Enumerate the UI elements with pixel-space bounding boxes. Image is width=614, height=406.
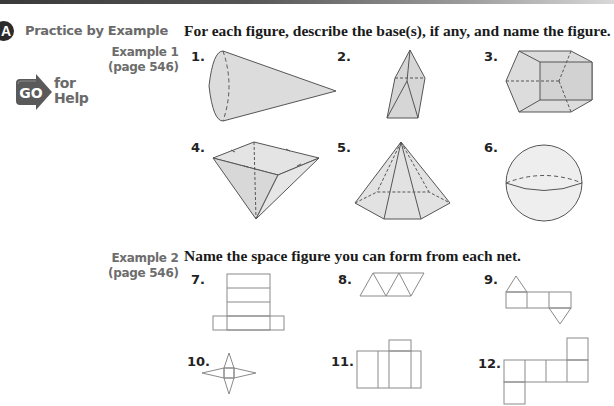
go-for-help-link[interactable]: GO for Help bbox=[14, 74, 89, 112]
example-2-label: Example 2 bbox=[108, 251, 179, 266]
net-figure-12 bbox=[478, 356, 568, 406]
example-2-instruction: Name the space figure you can form from … bbox=[184, 247, 521, 265]
example-2-page: (page 546) bbox=[108, 266, 179, 281]
example-1-page: (page 546) bbox=[108, 60, 179, 75]
net-figure-7 bbox=[191, 272, 281, 342]
for-help-text: for Help bbox=[54, 76, 88, 106]
example-1-instruction: For each figure, describe the base(s), i… bbox=[184, 22, 611, 40]
sphere-figure bbox=[484, 140, 574, 230]
svg-text:GO: GO bbox=[19, 85, 42, 101]
hexagonal-pyramid-figure bbox=[337, 140, 447, 230]
pentagonal-prism-figure bbox=[484, 49, 604, 129]
example-1-label: Example 1 bbox=[108, 45, 179, 60]
cone-figure bbox=[191, 49, 321, 129]
for-text: for bbox=[54, 76, 88, 91]
help-text: Help bbox=[54, 91, 88, 106]
net-figure-8 bbox=[338, 272, 418, 312]
section-badge: A bbox=[0, 21, 14, 41]
example-1-reference: Example 1 (page 546) bbox=[108, 45, 179, 75]
triangular-pyramid-figure bbox=[337, 49, 417, 129]
section-title: Practice by Example bbox=[25, 23, 168, 38]
page-top-bar bbox=[0, 0, 614, 4]
example-2-reference: Example 2 (page 546) bbox=[108, 251, 179, 281]
square-pyramid-figure bbox=[191, 140, 311, 230]
go-arrow-icon: GO bbox=[14, 74, 54, 110]
net-figure-9 bbox=[484, 272, 574, 342]
net-figure-11 bbox=[331, 354, 411, 404]
net-figure-10 bbox=[187, 354, 257, 404]
